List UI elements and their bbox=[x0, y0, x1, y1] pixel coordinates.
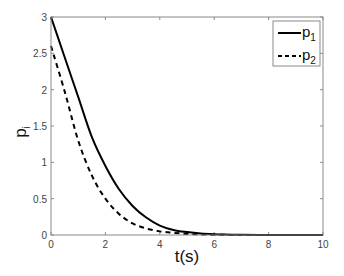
y-axis-label-sub: i bbox=[21, 126, 32, 128]
legend-sub-p2: 2 bbox=[310, 55, 316, 66]
legend: p1 p2 bbox=[273, 21, 320, 66]
series-line-p2 bbox=[51, 46, 323, 235]
x-tick-label: 6 bbox=[211, 239, 217, 250]
y-tick-label: 1 bbox=[41, 157, 47, 168]
x-axis-label: t(s) bbox=[175, 247, 200, 266]
y-axis-label: pi bbox=[11, 126, 32, 138]
legend-label-p1: p bbox=[302, 23, 310, 40]
legend-label-p2: p bbox=[302, 46, 310, 63]
x-tick-label: 4 bbox=[157, 239, 163, 250]
x-tick-label: 0 bbox=[48, 239, 54, 250]
x-tick-label: 10 bbox=[317, 239, 329, 250]
y-tick-label: 0 bbox=[41, 230, 47, 241]
y-tick-label: 2 bbox=[41, 85, 47, 96]
legend-sub-p1: 1 bbox=[310, 32, 316, 43]
y-tick-label: 1.5 bbox=[33, 121, 47, 132]
x-tick-label: 2 bbox=[103, 239, 109, 250]
line-chart: 024681000.511.522.53 t(s) pi p1 p2 bbox=[0, 0, 344, 276]
svg-text:pi: pi bbox=[11, 126, 32, 138]
y-tick-label: 3 bbox=[41, 12, 47, 23]
y-tick-label: 2.5 bbox=[33, 48, 47, 59]
x-tick-label: 8 bbox=[266, 239, 272, 250]
y-axis-label-main: p bbox=[11, 128, 30, 137]
y-tick-label: 0.5 bbox=[33, 194, 47, 205]
